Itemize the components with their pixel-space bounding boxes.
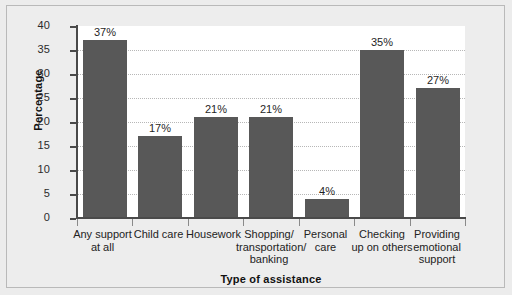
y-tick-mark-35 [70,50,76,52]
bar-any-support[interactable] [83,40,127,218]
x-separator-5 [354,219,355,226]
bar-value-shopping: 21% [249,103,293,115]
bar-value-checking-up: 35% [360,36,404,48]
category-line: banking [236,253,302,266]
x-axis-title: Type of assistance [77,273,465,285]
y-tick-mark-30 [70,74,76,76]
bar-slot-providing-support: 27% [416,26,460,218]
chart-figure: Percentage 37% 17% 21% [0,0,512,295]
category-line: care [297,241,354,254]
bar-value-child-care: 17% [138,122,182,134]
y-tick-mark-0 [70,218,76,220]
bar-slot-any-support: 37% [83,26,127,218]
x-axis-line [76,217,466,219]
y-tick-label-15: 15 [38,140,50,151]
y-axis-line [76,25,78,219]
y-tick-label-40: 40 [38,20,50,31]
category-line: Child care [129,228,188,241]
category-line: emotional [407,241,467,254]
bar-providing-support[interactable] [416,88,460,218]
y-tick-label-10: 10 [38,164,50,175]
y-tick-label-35: 35 [38,44,50,55]
plot-area: 37% 17% 21% 21% 4% 35% [77,26,465,218]
x-separator-left [77,219,78,226]
category-line: Personal [297,228,354,241]
bar-slot-child-care: 17% [138,26,182,218]
y-tick-mark-10 [70,170,76,172]
y-tick-mark-5 [70,194,76,196]
bar-slot-checking-up: 35% [360,26,404,218]
bar-shopping[interactable] [249,117,293,218]
bar-child-care[interactable] [138,136,182,218]
y-tick-label-5: 5 [44,188,50,199]
x-separator-right [465,219,466,226]
y-tick-mark-40 [70,26,76,28]
x-separator-6 [410,219,411,226]
category-label-personal-care: Personal care [297,228,354,253]
category-line: Checking [349,228,415,241]
category-line: transportation/ [236,241,302,254]
category-line: up on others [349,241,415,254]
y-tick-mark-25 [70,98,76,100]
bar-checking-up[interactable] [360,50,404,218]
category-line: Any support [73,228,132,241]
chart-frame: Percentage 37% 17% 21% [6,5,505,288]
bar-slot-housework: 21% [194,26,238,218]
bar-personal-care[interactable] [305,199,349,218]
bar-value-housework: 21% [194,103,238,115]
category-line: support [407,253,467,266]
bar-slot-shopping: 21% [249,26,293,218]
category-label-shopping: Shopping/ transportation/ banking [236,228,302,266]
category-line: at all [73,241,132,254]
y-tick-label-20: 20 [38,116,50,127]
y-tick-mark-20 [70,122,76,124]
x-separator-4 [299,219,300,226]
y-tick-label-25: 25 [38,92,50,103]
category-label-any-support: Any support at all [73,228,132,253]
bar-value-any-support: 37% [83,26,127,38]
bar-housework[interactable] [194,117,238,218]
category-label-checking-up: Checking up on others [349,228,415,253]
bar-slot-personal-care: 4% [305,26,349,218]
x-separator-3 [243,219,244,226]
bar-value-providing-support: 27% [416,74,460,86]
y-tick-mark-15 [70,146,76,148]
bar-value-personal-care: 4% [305,185,349,197]
category-label-child-care: Child care [129,228,188,241]
category-label-providing-support: Providing emotional support [407,228,467,266]
x-separator-1 [132,219,133,226]
category-line: Housework [184,228,243,241]
category-line: Shopping/ [236,228,302,241]
category-label-housework: Housework [184,228,243,241]
y-tick-label-0: 0 [44,212,50,223]
category-line: Providing [407,228,467,241]
y-tick-label-30: 30 [38,68,50,79]
x-separator-2 [188,219,189,226]
